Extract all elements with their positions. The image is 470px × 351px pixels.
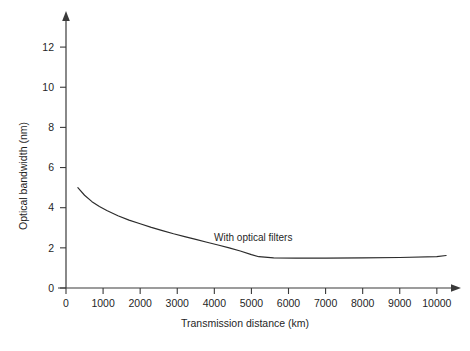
data-curve-with-optical-filters: [78, 188, 446, 258]
x-tick-label: 10000: [422, 297, 451, 309]
y-tick-label: 2: [48, 242, 54, 254]
x-axis-title: Transmission distance (km): [181, 317, 309, 329]
chart-figure: 024681012 Optical bandwidth (nm) 0100020…: [0, 0, 470, 351]
x-axis-arrow-icon: [451, 284, 461, 292]
y-tick-label: 8: [48, 121, 54, 133]
x-tick-label: 5000: [240, 297, 264, 309]
y-tick-label: 12: [42, 41, 54, 53]
annotation-group: With optical filters: [214, 232, 292, 243]
y-tick-label: 4: [48, 201, 54, 213]
x-tick-label: 1000: [91, 297, 115, 309]
y-axis-arrow-icon: [62, 11, 70, 21]
curve-annotation-label: With optical filters: [214, 232, 292, 243]
x-tick-label: 3000: [166, 297, 190, 309]
y-axis: 024681012 Optical bandwidth (nm): [17, 11, 70, 294]
y-tick-label: 10: [42, 81, 54, 93]
x-tick-label: 6000: [277, 297, 301, 309]
x-tick-label: 8000: [351, 297, 375, 309]
y-tick-label: 6: [48, 161, 54, 173]
y-tick-label: 0: [48, 282, 54, 294]
x-tick-label: 7000: [314, 297, 338, 309]
x-tick-label: 9000: [388, 297, 412, 309]
chart-svg: 024681012 Optical bandwidth (nm) 0100020…: [0, 0, 470, 351]
data-series-group: [78, 188, 446, 258]
x-axis: 0100020003000400050006000700080009000100…: [58, 284, 461, 329]
x-tick-group: 0100020003000400050006000700080009000100…: [63, 288, 452, 309]
x-tick-label: 0: [63, 297, 69, 309]
y-axis-title: Optical bandwidth (nm): [17, 122, 29, 230]
x-tick-label: 2000: [128, 297, 152, 309]
x-tick-label: 4000: [203, 297, 227, 309]
y-tick-group: 024681012: [42, 41, 66, 294]
